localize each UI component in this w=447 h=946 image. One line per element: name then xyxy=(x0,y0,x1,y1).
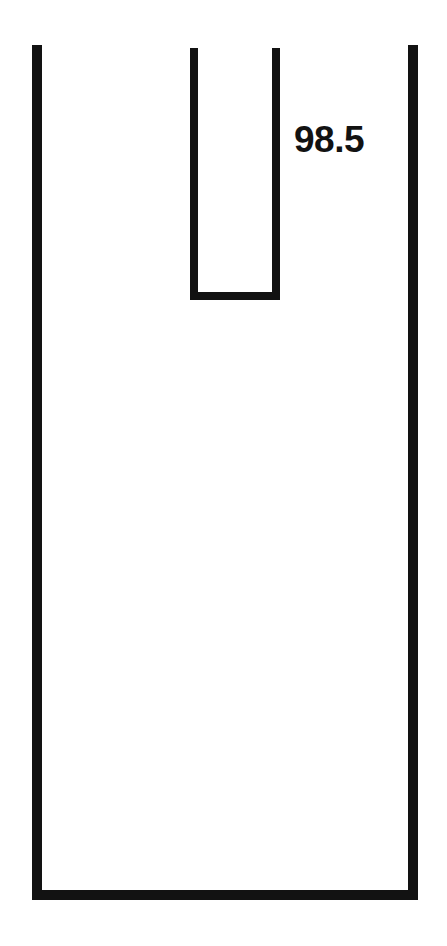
technical-drawing-svg xyxy=(0,0,447,946)
reference-numeral-label: 98.5 xyxy=(294,121,364,158)
drawing-background xyxy=(0,0,447,946)
figure-canvas: 98.5 xyxy=(0,0,447,946)
